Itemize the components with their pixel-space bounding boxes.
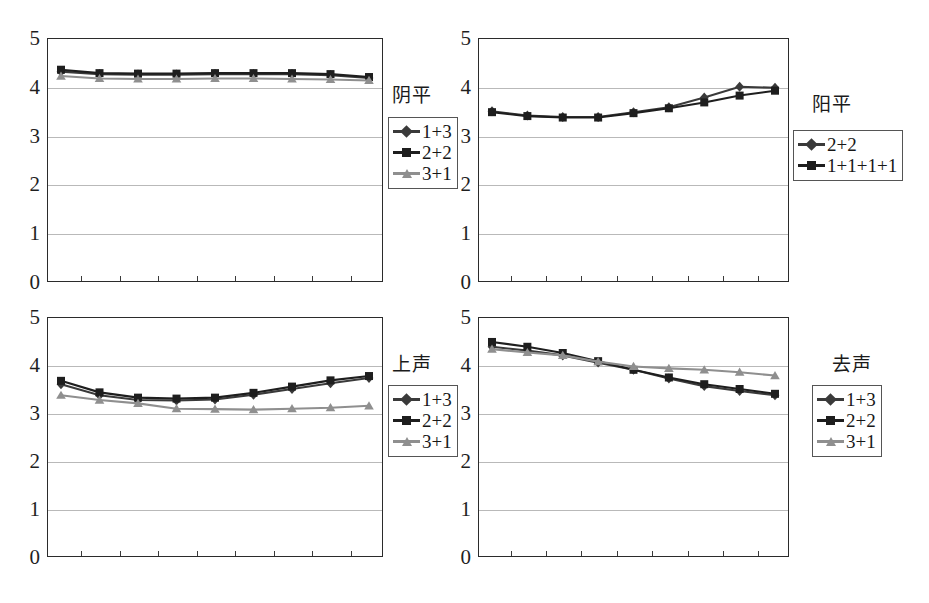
legend-item[interactable]: 2+2	[798, 134, 897, 155]
legend-symbol-diamond-icon	[817, 394, 844, 406]
y-tick-label: 2	[30, 174, 41, 195]
series-marker	[523, 112, 531, 120]
series-marker	[736, 385, 744, 393]
series-marker	[594, 114, 602, 122]
legend-yinping: 1+32+23+1	[388, 117, 458, 189]
y-tick-label: 0	[30, 547, 41, 568]
legend-symbol-diamond-icon	[393, 394, 420, 406]
legend-item[interactable]: 3+1	[393, 163, 452, 184]
legend-shangsheng: 1+32+23+1	[388, 385, 458, 457]
legend-label: 2+2	[422, 143, 452, 162]
series-marker	[365, 372, 373, 380]
legend-label: 1+1+1+1	[827, 156, 897, 175]
series-marker	[57, 377, 65, 385]
y-tick-label: 1	[30, 499, 41, 520]
legend-label: 3+1	[422, 432, 452, 451]
legend-symbol-square-icon	[798, 160, 825, 172]
y-tick-label: 1	[461, 499, 472, 520]
series-marker	[735, 82, 744, 92]
legend-item[interactable]: 1+3	[393, 389, 452, 410]
series-marker	[665, 104, 673, 112]
y-tick-label: 2	[461, 451, 472, 472]
series-marker	[771, 390, 779, 398]
legend-item[interactable]: 3+1	[393, 431, 452, 452]
legend-label: 3+1	[846, 432, 876, 451]
legend-item[interactable]: 3+1	[817, 431, 876, 452]
series-marker	[488, 108, 496, 116]
legend-symbol-square-icon	[393, 415, 420, 427]
panel-yangping: 5 4 3 2 1 0	[478, 38, 789, 282]
panel-shangsheng: 5 4 3 2 1 0	[47, 317, 383, 557]
y-tick-label: 1	[461, 223, 472, 244]
series-layer-yinping	[47, 38, 383, 282]
panel-yinping: 5 4 3 2 1 0	[47, 38, 383, 282]
y-tick-label: 3	[461, 403, 472, 424]
series-marker	[250, 389, 258, 397]
legend-item[interactable]: 2+2	[817, 410, 876, 431]
series-marker	[700, 98, 708, 106]
y-tick-label: 0	[461, 547, 472, 568]
y-tick-label: 5	[461, 28, 472, 49]
legend-symbol-triangle-icon	[817, 436, 844, 448]
y-tick-label: 4	[461, 355, 472, 376]
y-tick-label: 5	[461, 307, 472, 328]
legend-item[interactable]: 2+2	[393, 410, 452, 431]
panel-qusheng: 5 4 3 2 1 0	[478, 317, 789, 557]
y-tick-label: 5	[30, 307, 41, 328]
legend-label: 2+2	[846, 411, 876, 430]
legend-label: 1+3	[422, 390, 452, 409]
y-tick-label: 4	[30, 355, 41, 376]
series-marker	[665, 373, 673, 381]
series-marker	[736, 92, 744, 100]
legend-yangping: 2+21+1+1+1	[793, 130, 903, 181]
legend-symbol-square-icon	[393, 147, 420, 159]
panel-caption-yangping: 阳平	[812, 95, 852, 114]
y-tick-label: 3	[30, 403, 41, 424]
series-layer-yangping	[478, 38, 789, 282]
legend-item[interactable]: 1+3	[393, 121, 452, 142]
y-tick-label: 0	[30, 272, 41, 293]
y-tick-label: 4	[461, 76, 472, 97]
series-marker	[211, 394, 219, 402]
y-tick-label: 5	[30, 28, 41, 49]
legend-label: 2+2	[827, 135, 857, 154]
legend-item[interactable]: 2+2	[393, 142, 452, 163]
legend-qusheng: 1+32+23+1	[812, 385, 882, 457]
y-tick-label: 2	[30, 451, 41, 472]
legend-label: 2+2	[422, 411, 452, 430]
legend-symbol-diamond-icon	[393, 126, 420, 138]
legend-symbol-triangle-icon	[393, 436, 420, 448]
legend-symbol-triangle-icon	[393, 168, 420, 180]
panel-caption-qusheng: 去声	[832, 355, 872, 374]
panel-caption-shangsheng: 上声	[392, 355, 432, 374]
legend-symbol-diamond-icon	[798, 139, 825, 151]
series-layer-qusheng	[478, 317, 789, 557]
legend-label: 1+3	[422, 122, 452, 141]
series-marker	[630, 109, 638, 117]
legend-symbol-square-icon	[817, 415, 844, 427]
series-marker	[771, 87, 779, 95]
series-marker	[327, 376, 335, 384]
legend-label: 3+1	[422, 164, 452, 183]
y-tick-label: 3	[30, 125, 41, 146]
y-tick-label: 0	[461, 272, 472, 293]
y-tick-label: 2	[461, 174, 472, 195]
panel-caption-yinping: 阴平	[392, 86, 432, 105]
four-panel-tone-contour-figure: 5 4 3 2 1 0 阴平 1+32+23+1 5 4 3 2 1 0 阳平 …	[0, 0, 929, 603]
y-tick-label: 1	[30, 223, 41, 244]
series-marker	[173, 395, 181, 403]
legend-item[interactable]: 1+3	[817, 389, 876, 410]
legend-item[interactable]: 1+1+1+1	[798, 155, 897, 176]
series-marker	[559, 114, 567, 122]
y-tick-label: 4	[30, 76, 41, 97]
series-marker	[288, 383, 296, 391]
series-marker	[700, 380, 708, 388]
legend-label: 1+3	[846, 390, 876, 409]
series-marker	[96, 388, 104, 396]
y-tick-label: 3	[461, 125, 472, 146]
series-layer-shangsheng	[47, 317, 383, 557]
